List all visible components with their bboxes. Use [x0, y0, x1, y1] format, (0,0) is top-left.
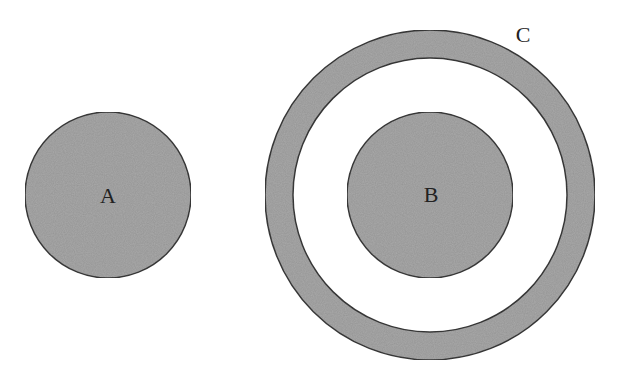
label-b: B — [424, 184, 439, 206]
label-a: A — [100, 185, 116, 207]
diagram-canvas — [0, 0, 622, 379]
label-c: C — [516, 24, 531, 46]
